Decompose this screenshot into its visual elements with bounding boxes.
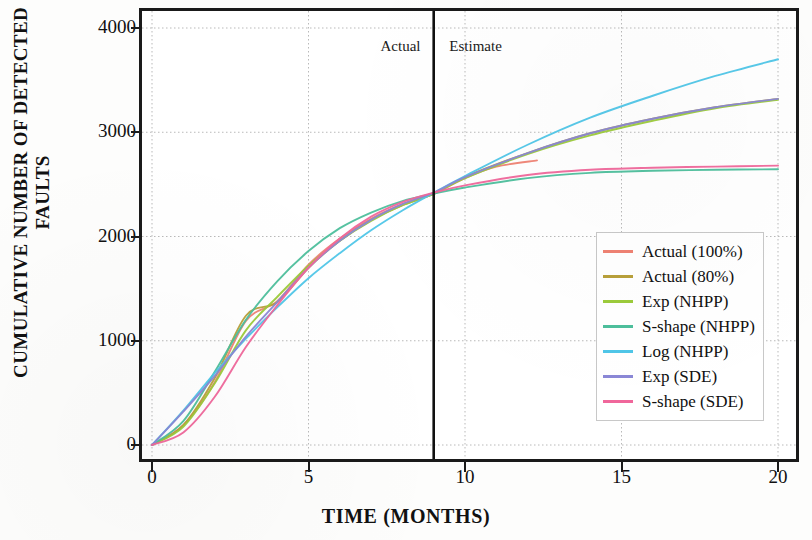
- legend-item-label: S-shape (NHPP): [642, 317, 755, 337]
- legend-item[interactable]: Log (NHPP): [603, 339, 755, 364]
- x-tick-mark: [308, 462, 310, 472]
- x-tick-mark: [777, 462, 779, 472]
- legend-item-label: Exp (SDE): [642, 367, 717, 387]
- legend-item[interactable]: Actual (100%): [603, 239, 755, 264]
- plot-annotation: Estimate: [449, 38, 502, 55]
- chart-page: CUMULATIVE NUMBER OF DETECTED FAULTS 010…: [0, 0, 812, 540]
- legend-item[interactable]: Actual (80%): [603, 264, 755, 289]
- legend-item[interactable]: S-shape (SDE): [603, 389, 755, 414]
- legend-item-label: Actual (100%): [642, 242, 743, 262]
- y-tick-mark: [131, 131, 142, 133]
- legend-color-swatch: [603, 300, 633, 303]
- legend-color-swatch: [603, 375, 633, 378]
- x-tick-mark: [621, 462, 623, 472]
- y-tick-label: 0: [46, 433, 136, 455]
- legend-item-label: S-shape (SDE): [642, 392, 744, 412]
- legend-color-swatch: [603, 400, 633, 403]
- y-tick-label: 4000: [46, 16, 136, 38]
- x-tick-mark: [151, 462, 153, 472]
- y-tick-label: 1000: [46, 329, 136, 351]
- legend-color-swatch: [603, 350, 633, 353]
- x-axis-label: TIME (MONTHS): [0, 505, 812, 528]
- y-tick-label: 2000: [46, 225, 136, 247]
- y-tick-mark: [131, 27, 142, 29]
- legend-color-swatch: [603, 325, 633, 328]
- y-tick-mark: [131, 236, 142, 238]
- legend-color-swatch: [603, 250, 633, 253]
- legend-item[interactable]: S-shape (NHPP): [603, 314, 755, 339]
- legend-item[interactable]: Exp (SDE): [603, 364, 755, 389]
- legend-item-label: Log (NHPP): [642, 342, 728, 362]
- plot-annotation: Actual: [380, 38, 420, 55]
- legend-item-label: Exp (NHPP): [642, 292, 728, 312]
- chart-legend: Actual (100%)Actual (80%)Exp (NHPP)S-sha…: [596, 232, 764, 421]
- y-tick-mark: [131, 340, 142, 342]
- y-tick-mark: [131, 444, 142, 446]
- x-tick-mark: [464, 462, 466, 472]
- y-tick-label: 3000: [46, 120, 136, 142]
- legend-item[interactable]: Exp (NHPP): [603, 289, 755, 314]
- y-axis-tick-labels: 01000200030004000: [40, 0, 136, 454]
- legend-color-swatch: [603, 275, 633, 278]
- legend-item-label: Actual (80%): [642, 267, 734, 287]
